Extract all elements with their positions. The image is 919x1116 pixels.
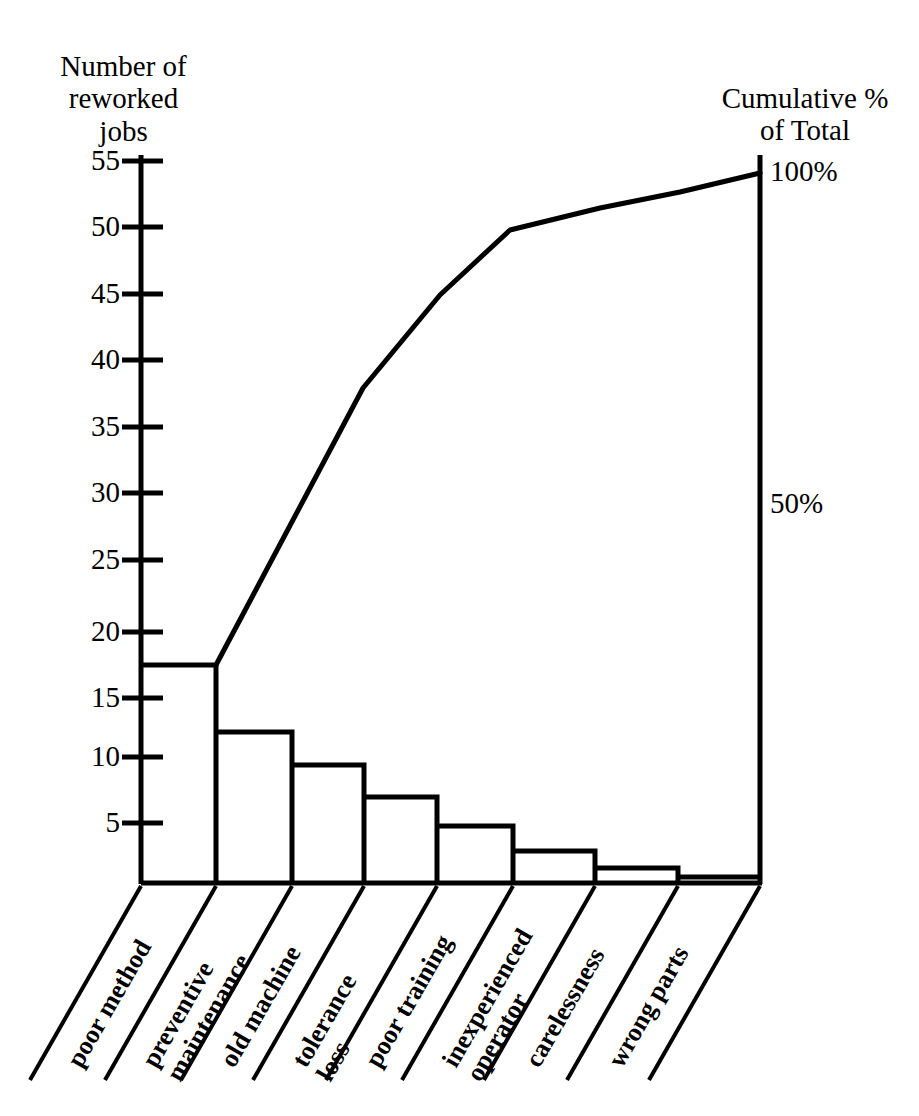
y-tick-label-15: 15: [60, 681, 120, 714]
y-tick-label-30: 30: [60, 476, 120, 509]
y-tick-label-35: 35: [60, 410, 120, 443]
cumulative-percent-line: [216, 173, 760, 665]
y-tick-label-50: 50: [60, 210, 120, 243]
y-tick-label-20: 20: [60, 615, 120, 648]
y-tick-label-55: 55: [60, 144, 120, 177]
y-tick-label-40: 40: [60, 343, 120, 376]
pareto-chart: Number of reworked jobs Cumulative % of …: [0, 0, 919, 1116]
y-tick-label-25: 25: [60, 543, 120, 576]
bar-series: [141, 665, 760, 883]
y-tick-label-5: 5: [60, 806, 120, 839]
y-tick-label-45: 45: [60, 277, 120, 310]
y-tick-label-10: 10: [60, 740, 120, 773]
